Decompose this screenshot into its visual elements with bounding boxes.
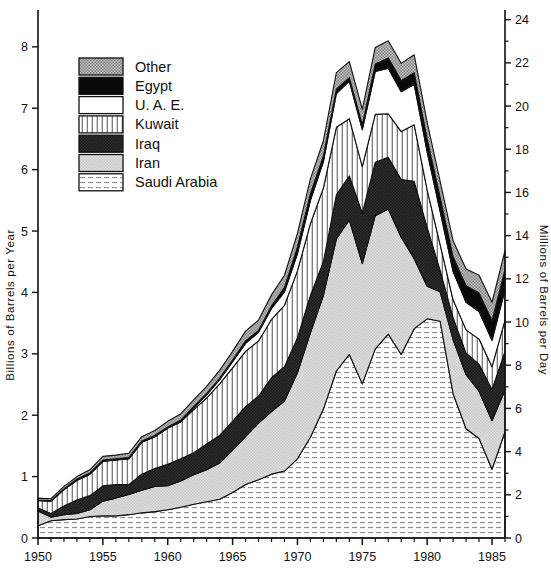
- y-tick-label-right: 20: [515, 100, 529, 114]
- y-tick-label-left: 7: [21, 102, 28, 116]
- legend-label: Kuwait: [135, 116, 179, 132]
- legend-label: Other: [135, 59, 171, 75]
- y-tick-label-right: 8: [515, 359, 522, 373]
- legend-label: Egypt: [135, 78, 172, 94]
- oil-production-stacked-area-chart: 0123456780246810121416182022241950195519…: [0, 0, 551, 571]
- y-tick-label-right: 10: [515, 316, 529, 330]
- y-tick-label-right: 22: [515, 56, 529, 70]
- y-tick-label-right: 18: [515, 143, 529, 157]
- legend-swatch-iraq: [79, 135, 123, 152]
- legend-label: Iraq: [135, 136, 160, 152]
- y-tick-label-right: 14: [515, 229, 529, 243]
- legend-label: Saudi Arabia: [135, 174, 218, 190]
- legend-swatch-iran: [79, 155, 123, 172]
- legend-swatch-saudi-arabia: [79, 174, 123, 191]
- y-tick-label-left: 3: [21, 347, 28, 361]
- x-tick-label: 1950: [24, 550, 52, 564]
- x-tick-label: 1970: [284, 550, 312, 564]
- legend-swatch-other: [79, 58, 123, 75]
- legend-label: U. A. E.: [135, 97, 184, 113]
- legend-swatch-egypt: [79, 77, 123, 94]
- y-tick-label-right: 12: [515, 272, 529, 286]
- legend-swatch-kuwait: [79, 116, 123, 133]
- x-tick-label: 1955: [89, 550, 117, 564]
- y-tick-label-right: 4: [515, 445, 522, 459]
- y-tick-label-left: 6: [21, 163, 28, 177]
- y-axis-right-title: Millions of Barrels per Day: [538, 225, 550, 375]
- y-tick-label-left: 1: [21, 470, 28, 484]
- x-tick-label: 1965: [219, 550, 247, 564]
- y-axis-left-title: Billions of Barrels per Year: [4, 229, 16, 381]
- y-tick-label-right: 2: [515, 488, 522, 502]
- x-tick-label: 1975: [348, 550, 376, 564]
- y-tick-label-right: 24: [515, 13, 529, 27]
- y-tick-label-right: 16: [515, 186, 529, 200]
- y-tick-label-right: 0: [515, 532, 522, 546]
- x-tick-label: 1985: [478, 550, 506, 564]
- y-tick-label-left: 2: [21, 409, 28, 423]
- chart-legend: OtherEgyptU. A. E.KuwaitIraqIranSaudi Ar…: [79, 58, 218, 191]
- y-tick-label-left: 0: [21, 532, 28, 546]
- x-tick-label: 1980: [413, 550, 441, 564]
- y-tick-label-left: 5: [21, 225, 28, 239]
- y-tick-label-right: 6: [515, 402, 522, 416]
- legend-label: Iran: [135, 155, 160, 171]
- chart-canvas: 0123456780246810121416182022241950195519…: [0, 0, 551, 571]
- y-tick-label-left: 4: [21, 286, 28, 300]
- legend-swatch-u-a-e: [79, 97, 123, 114]
- x-tick-label: 1960: [154, 550, 182, 564]
- y-tick-label-left: 8: [21, 40, 28, 54]
